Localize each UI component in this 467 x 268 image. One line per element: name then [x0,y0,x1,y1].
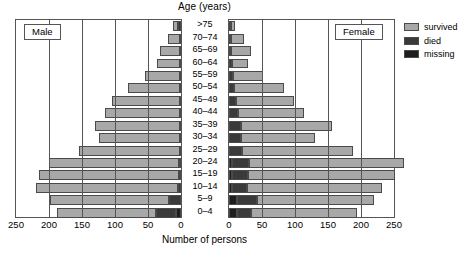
bar-segment-survived [231,21,235,31]
bar-segment-died [178,21,181,31]
bar-segment-died [156,208,176,218]
bar-segment-survived [168,34,180,44]
x-tick-label: 250 [386,219,402,230]
bar-segment-died [229,133,241,143]
bar-segment-died [229,146,242,156]
age-group-labels: >7570–7465–6960–6455–5950–5445–4940–4435… [182,19,228,218]
age-label: 50–54 [182,81,228,91]
bar-row [16,121,181,131]
bar-segment-survived [57,208,156,218]
bar-row [229,46,394,56]
bar-segment-died [178,183,181,193]
bar-segment-survived [231,46,251,56]
bar-segment-survived [242,146,353,156]
gridline-100 [295,20,296,217]
bar-row [16,96,181,106]
bar-segment-missing [176,208,181,218]
bar-segment-survived [234,83,284,93]
bar-row [229,96,394,106]
bar-row [16,71,181,81]
bar-segment-survived [39,170,179,180]
bar-row [16,170,181,180]
bar-row [229,59,394,69]
male-x-axis-ticks: 250200150100500 [15,219,182,233]
x-axis-title: Number of persons [0,234,467,245]
bar-segment-survived [36,183,178,193]
x-tick-label: 150 [320,219,336,230]
age-label: 15–19 [182,168,228,178]
female-bar-rows [229,20,394,217]
age-label: 25–29 [182,144,228,154]
age-label: 0–4 [182,206,228,216]
age-label: 65–69 [182,44,228,54]
bar-segment-survived [95,121,179,131]
bar-segment-survived [173,21,178,31]
bar-row [229,133,394,143]
bar-segment-survived [241,133,315,143]
x-tick-label: 150 [74,219,90,230]
bar-segment-survived [248,170,395,180]
bar-segment-survived [160,46,180,56]
x-tick-label: 200 [353,219,369,230]
bar-row [229,83,394,93]
bar-row [229,71,394,81]
x-tick-label: 0 [178,219,183,230]
legend-label: died [424,36,441,46]
x-tick-label: 250 [8,219,24,230]
male-bar-rows [16,20,181,217]
age-label: 30–34 [182,131,228,141]
gridline-100 [115,20,116,217]
bar-row [229,121,394,131]
bar-segment-survived [241,121,332,131]
bar-segment-died [169,195,181,205]
age-label: 70–74 [182,32,228,42]
chart-title: Age (years) [0,1,467,12]
bar-segment-survived [157,59,180,69]
legend-swatch-missing [404,50,419,58]
bar-segment-survived [145,71,179,81]
bar-segment-survived [232,59,249,69]
bar-segment-survived [236,96,294,106]
bar-segment-died [179,158,181,168]
age-label: 40–44 [182,106,228,116]
bar-row [16,158,181,168]
gridline-200 [361,20,362,217]
x-tick-label: 100 [107,219,123,230]
bar-row [229,208,394,218]
bar-row [229,108,394,118]
gridline-200 [49,20,50,217]
bar-row [16,83,181,93]
age-label: 5–9 [182,193,228,203]
bar-segment-survived [79,146,179,156]
age-label: 55–59 [182,69,228,79]
gridline-150 [82,20,83,217]
bar-segment-died [179,170,181,180]
male-label-box: Male [24,24,61,40]
bar-row [229,158,394,168]
legend-swatch-died [404,37,419,45]
gridline-50 [262,20,263,217]
x-tick-label: 100 [287,219,303,230]
legend-swatch-survived [404,23,419,31]
female-label-box: Female [335,24,383,40]
bar-row [229,146,394,156]
x-tick-label: 50 [257,219,268,230]
bar-segment-survived [105,108,180,118]
bar-segment-survived [128,83,179,93]
bar-segment-survived [233,71,263,81]
age-label: 10–14 [182,181,228,191]
age-label: 20–24 [182,156,228,166]
bar-segment-survived [112,96,180,106]
bar-row [16,146,181,156]
legend-label: missing [424,49,455,59]
bar-row [229,195,394,205]
bar-segment-died [229,96,236,106]
female-x-axis-ticks: 050100150200250 [228,219,395,233]
bar-segment-missing [229,208,237,218]
bar-segment-survived [231,34,244,44]
bar-segment-died [232,183,247,193]
bar-segment-died [229,108,238,118]
bar-segment-survived [249,158,404,168]
bar-row [16,195,181,205]
bar-segment-missing [229,195,237,205]
